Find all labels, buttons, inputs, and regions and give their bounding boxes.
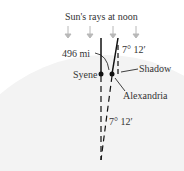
- shadow-label: Shadow: [139, 64, 171, 74]
- distance-label: 496 mi: [62, 49, 90, 59]
- alexandria-label: Alexandria: [123, 91, 167, 101]
- eratosthenes-diagram: Sun's rays at noon 496 mi 7° 12′ Syene S…: [0, 0, 184, 171]
- angle-top-label: 7° 12′: [122, 45, 146, 55]
- diagram-graphics: [0, 0, 184, 171]
- sun-ray-arrows: [65, 26, 139, 38]
- diagram-title: Sun's rays at noon: [65, 12, 138, 22]
- angle-bottom-label: 7° 12′: [109, 117, 133, 127]
- syene-dot: [99, 72, 104, 77]
- syene-label: Syene: [73, 70, 97, 80]
- alexandria-dot: [110, 72, 115, 77]
